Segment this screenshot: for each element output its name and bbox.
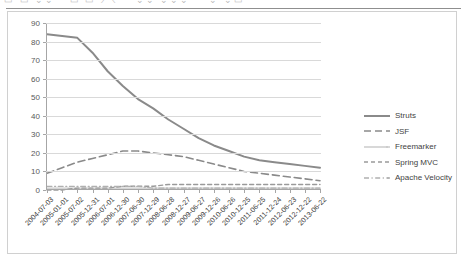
grid-line	[46, 116, 321, 117]
y-tick-label: 20	[14, 148, 40, 157]
legend-label: Spring MVC	[395, 158, 438, 167]
y-tick-label: 10	[14, 167, 40, 176]
plot-area	[46, 23, 321, 190]
legend-swatch-icon	[364, 142, 390, 152]
grid-line	[46, 23, 321, 24]
chart-frame: 0102030405060708090 2004-07-032005-01-01…	[7, 11, 457, 254]
legend-label: Freemarker	[395, 142, 436, 151]
legend-label: Struts	[395, 111, 416, 120]
grid-line	[46, 171, 321, 172]
series-line-struts	[47, 34, 320, 168]
legend-item-freemarker[interactable]: Freemarker	[364, 139, 469, 155]
series-line-jsf	[47, 151, 320, 181]
legend-item-spring-mvc[interactable]: Spring MVC	[364, 155, 469, 171]
y-tick-label: 40	[14, 111, 40, 120]
grid-line	[46, 60, 321, 61]
y-tick-mark	[43, 60, 46, 61]
y-tick-mark	[43, 116, 46, 117]
grid-line	[46, 97, 321, 98]
y-tick-label: 70	[14, 56, 40, 65]
legend-item-apache-velocity[interactable]: Apache Velocity	[364, 170, 469, 186]
legend-item-jsf[interactable]: JSF	[364, 124, 469, 140]
y-tick-mark	[43, 42, 46, 43]
y-tick-label: 80	[14, 37, 40, 46]
legend-label: JSF	[395, 127, 409, 136]
legend-swatch-icon	[364, 111, 390, 121]
y-tick-label: 60	[14, 74, 40, 83]
y-tick-label: 50	[14, 93, 40, 102]
x-axis-labels: 2004-07-032005-01-012005-07-022005-12-31…	[46, 193, 346, 265]
grid-line	[46, 42, 321, 43]
grid-line	[46, 153, 321, 154]
y-tick-mark	[43, 79, 46, 80]
toolbar-divider	[6, 8, 461, 9]
legend-swatch-icon	[364, 126, 390, 136]
legend-swatch-icon	[364, 157, 390, 167]
grid-line	[46, 134, 321, 135]
y-tick-mark	[43, 134, 46, 135]
y-tick-mark	[43, 190, 46, 191]
y-tick-label: 30	[14, 130, 40, 139]
legend-item-struts[interactable]: Struts	[364, 108, 469, 124]
y-tick-label: 0	[14, 186, 40, 195]
legend-swatch-icon	[364, 173, 390, 183]
y-tick-label: 90	[14, 19, 40, 28]
y-axis	[46, 23, 47, 190]
screenshot-root: ▭ ▭ ⌄⌄⌃ ▭ ▭ ⟋⟍ ⌃ ⌄⌄ ⌄⌄⌄ ⌃ ⌄ ⌄▭ 010203040…	[0, 0, 469, 265]
toolbar-glyphs: ▭ ▭ ⌄⌄⌃ ▭ ▭ ⟋⟍ ⌃ ⌄⌄ ⌄⌄⌄ ⌃ ⌄ ⌄▭	[4, 0, 245, 6]
series-layer	[46, 23, 321, 190]
legend-label: Apache Velocity	[395, 173, 452, 182]
toolbar-fragment: ▭ ▭ ⌄⌄⌃ ▭ ▭ ⟋⟍ ⌃ ⌄⌄ ⌄⌄⌄ ⌃ ⌄ ⌄▭	[0, 0, 469, 7]
y-tick-mark	[43, 171, 46, 172]
chart-legend: StrutsJSFFreemarkerSpring MVCApache Velo…	[364, 108, 469, 186]
y-tick-mark	[43, 153, 46, 154]
grid-line	[46, 79, 321, 80]
y-tick-mark	[43, 23, 46, 24]
y-tick-mark	[43, 97, 46, 98]
